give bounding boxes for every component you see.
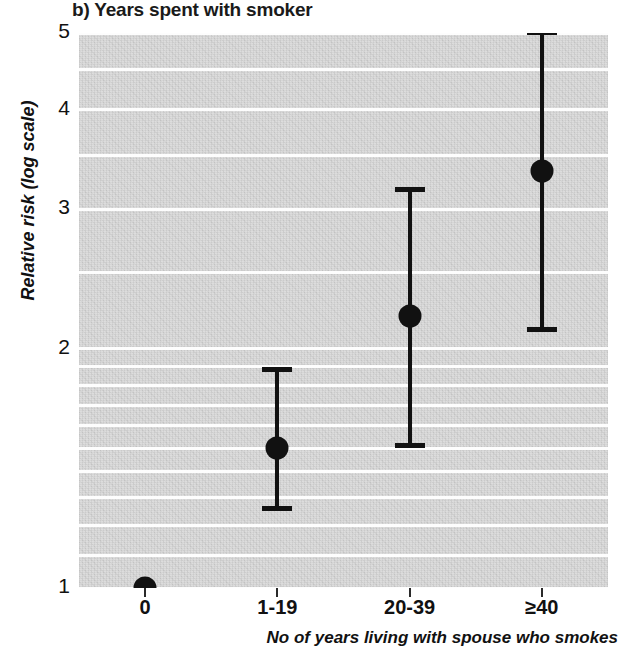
gridline xyxy=(79,404,608,407)
gridline xyxy=(79,68,608,71)
gridline xyxy=(79,587,608,589)
data-point-marker xyxy=(266,437,289,460)
page-title: b) Years spent with smoker xyxy=(72,0,312,21)
gridline xyxy=(79,384,608,387)
data-point-marker xyxy=(398,305,421,328)
data-point-marker xyxy=(530,160,553,183)
data-point-marker xyxy=(134,577,157,589)
gridline xyxy=(79,470,608,473)
x-axis-title: No of years living with spouse who smoke… xyxy=(0,628,618,648)
x-tick-label: ≥40 xyxy=(525,596,558,619)
gridline xyxy=(79,108,608,111)
y-tick-label: 4 xyxy=(36,96,70,120)
gridline xyxy=(79,271,608,274)
gridline xyxy=(79,208,608,211)
gridline xyxy=(79,424,608,427)
error-bar-cap-lower xyxy=(527,327,557,332)
error-bar-cap-upper xyxy=(395,187,425,192)
figure-panel-b: b) Years spent with smoker Relative risk… xyxy=(0,0,623,652)
x-tick-label: 1-19 xyxy=(257,596,297,619)
gridline xyxy=(79,365,608,368)
gridline xyxy=(79,447,608,450)
y-tick-label: 1 xyxy=(36,574,70,598)
x-tick-label: 0 xyxy=(140,596,151,619)
plot-background-texture xyxy=(79,33,608,588)
gridline xyxy=(79,496,608,499)
y-tick-label: 3 xyxy=(36,195,70,219)
error-bar-cap-lower xyxy=(262,506,292,511)
error-bar-cap-upper xyxy=(262,367,292,372)
y-tick-label: 5 xyxy=(36,19,70,43)
error-bar-cap-upper xyxy=(527,33,557,35)
x-tick-label: 20-39 xyxy=(384,596,435,619)
gridline xyxy=(79,347,608,350)
gridline xyxy=(79,524,608,527)
gridline xyxy=(79,154,608,157)
gridline xyxy=(79,554,608,557)
y-tick-label: 2 xyxy=(36,335,70,359)
plot-area xyxy=(79,33,608,588)
error-bar-cap-lower xyxy=(395,443,425,448)
